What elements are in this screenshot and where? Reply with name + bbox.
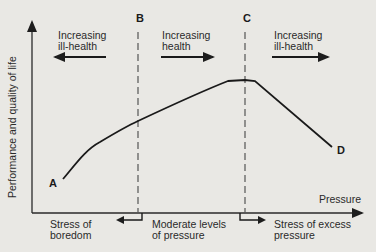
zone-top-3: Increasing ill-health: [274, 30, 322, 52]
arrow-left-icon: [118, 213, 142, 220]
x-axis-label: Pressure: [319, 194, 361, 205]
point-b-label: B: [136, 12, 144, 24]
y-axis-label: Performance and quality of life: [6, 56, 18, 198]
zone-top-2-line2: health: [162, 41, 210, 52]
performance-curve: [63, 80, 332, 179]
zone-bottom-1: Stress of boredom: [50, 219, 91, 241]
point-c-label: C: [243, 12, 251, 24]
zone-bottom-1-line2: boredom: [50, 230, 91, 241]
zone-top-1-line2: ill-health: [58, 41, 106, 52]
zone-top-1: Increasing ill-health: [58, 30, 106, 52]
zone-bottom-2: Moderate levels of pressure: [152, 219, 226, 241]
point-d-label: D: [337, 144, 345, 156]
zone-top-3-line2: ill-health: [274, 41, 322, 52]
zone-bottom-3: Stress of excess pressure: [274, 219, 351, 241]
point-a-label: A: [49, 177, 57, 189]
arrow-right-icon: [240, 213, 264, 220]
zone-bottom-3-line2: pressure: [274, 230, 351, 241]
zone-bottom-2-line2: of pressure: [152, 230, 226, 241]
zone-top-2: Increasing health: [162, 30, 210, 52]
